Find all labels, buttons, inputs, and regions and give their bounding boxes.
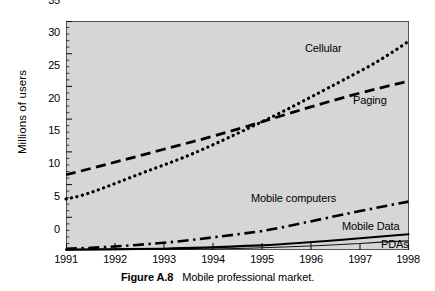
figure-caption-label: Figure A.8 xyxy=(121,271,173,283)
x-tick-1997: 1997 xyxy=(340,253,380,266)
annotation-mobile-data: Mobile Data xyxy=(342,220,400,232)
y-tick-25: 25 xyxy=(38,60,60,71)
annotation-pdas: PDAs xyxy=(381,238,409,250)
y-tick-30: 30 xyxy=(38,27,60,38)
y-minor-ticks xyxy=(66,28,69,244)
y-major-ticks xyxy=(66,22,72,250)
annotation-cellular: Cellular xyxy=(305,42,342,54)
annotation-mobile-computers: Mobile computers xyxy=(251,192,336,204)
y-tick-20: 20 xyxy=(38,93,60,104)
series-cellular xyxy=(66,41,409,199)
y-tick-0: 0 xyxy=(38,224,60,235)
plot-lines xyxy=(66,21,409,250)
x-axis-tick-labels: 1991 1992 1993 1994 1995 1996 1997 1998 xyxy=(66,253,409,269)
y-tick-5: 5 xyxy=(38,191,60,202)
x-tick-1993: 1993 xyxy=(144,253,184,266)
annotation-paging: Paging xyxy=(353,94,387,106)
x-tick-1995: 1995 xyxy=(242,253,282,266)
y-tick-35: 35 xyxy=(38,0,60,6)
figure-container: Millions of users 35 30 25 20 15 10 5 0 xyxy=(0,0,435,291)
y-tick-15: 15 xyxy=(38,125,60,136)
x-tick-1994: 1994 xyxy=(193,253,233,266)
x-tick-1991: 1991 xyxy=(46,253,86,266)
y-axis-tick-labels: 35 30 25 20 15 10 5 0 xyxy=(34,0,60,229)
figure-caption: Figure A.8Mobile professional market. xyxy=(0,270,435,284)
x-tick-1998: 1998 xyxy=(388,253,428,266)
figure-caption-text: Mobile professional market. xyxy=(182,271,314,283)
y-tick-10: 10 xyxy=(38,158,60,169)
x-tick-1992: 1992 xyxy=(95,253,135,266)
x-tick-1996: 1996 xyxy=(291,253,331,266)
y-axis-title: Millions of users xyxy=(16,52,28,172)
